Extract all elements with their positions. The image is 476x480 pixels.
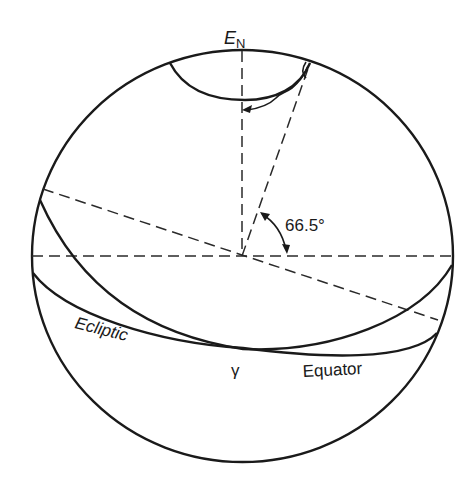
angle-arrowhead-bottom-icon: [282, 244, 290, 254]
celestial-sphere-diagram: EN 66.5° Ecliptic γ Equator: [0, 0, 476, 480]
vernal-equinox-label: γ: [231, 361, 240, 380]
precession-circle: [170, 63, 310, 100]
precession-arrowhead-icon: [242, 105, 252, 113]
angle-label: 66.5°: [285, 216, 325, 235]
equator-circle: [33, 273, 437, 355]
equator-label: Equator: [302, 359, 363, 381]
precession-arrow: [247, 66, 308, 110]
tilted-plane-dashed: [43, 189, 438, 320]
pole-label: EN: [224, 28, 245, 51]
